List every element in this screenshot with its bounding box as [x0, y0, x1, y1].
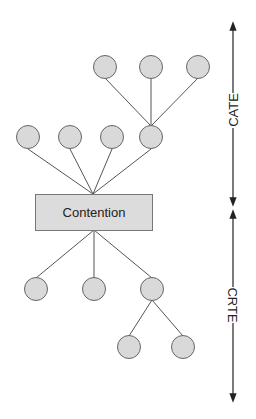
upper-node-l1-1 — [17, 126, 40, 149]
cate-label: CATE — [226, 93, 241, 127]
upper-node-l2-2 — [140, 56, 163, 79]
crte-label: CRTE — [225, 287, 240, 322]
upper-node-l1-4 — [140, 126, 163, 149]
lower-node-l2-2 — [172, 336, 195, 359]
lower-node-l1-2 — [83, 278, 106, 301]
upper-node-l1-2 — [59, 126, 82, 149]
lower-node-l1-1 — [25, 278, 48, 301]
upper-node-l2-3 — [187, 56, 210, 79]
upper-node-l2-1 — [94, 56, 117, 79]
lower-node-l2-1 — [118, 336, 141, 359]
lower-node-l1-3 — [141, 278, 164, 301]
upper-node-l1-3 — [101, 126, 124, 149]
contention-label: Contention — [63, 205, 126, 220]
contention-diagram: Contention CATE CRTE — [0, 0, 256, 419]
